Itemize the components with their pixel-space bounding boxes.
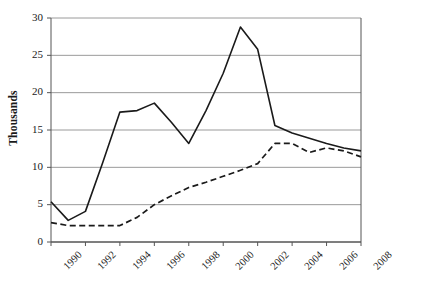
- y-tick-label: 15: [17, 123, 43, 135]
- plot-area: [0, 0, 422, 289]
- y-tick-label: 5: [17, 197, 43, 209]
- y-tick-label: 20: [17, 85, 43, 97]
- y-tick-label: 0: [17, 235, 43, 247]
- data-series-layer: [51, 27, 361, 226]
- y-axis-ticks: [47, 18, 51, 242]
- y-tick-label: 30: [17, 11, 43, 23]
- y-tick-label: 10: [17, 160, 43, 172]
- series-line-solid-series: [51, 27, 361, 220]
- x-axis-ticks: [51, 242, 361, 246]
- y-tick-label: 25: [17, 48, 43, 60]
- gridlines: [51, 18, 361, 242]
- line-chart: Thousands 051015202530 19901992199419961…: [0, 0, 422, 289]
- series-line-dashed-series: [51, 143, 361, 225]
